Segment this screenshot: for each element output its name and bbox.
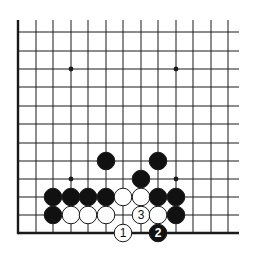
stone-disc xyxy=(79,188,97,206)
black-stone xyxy=(149,152,167,170)
white-stone xyxy=(132,188,150,206)
white-stone xyxy=(97,206,115,224)
go-board: 312 xyxy=(0,0,256,256)
stone-disc xyxy=(97,152,115,170)
black-stone xyxy=(97,152,115,170)
move-number: 2 xyxy=(155,226,162,240)
move-number: 1 xyxy=(120,226,127,240)
star-point xyxy=(174,67,179,72)
stone-disc xyxy=(44,188,62,206)
white-stone xyxy=(79,206,97,224)
stone-disc xyxy=(167,188,185,206)
black-stone xyxy=(97,188,115,206)
stone-disc xyxy=(167,206,185,224)
stones: 312 xyxy=(44,152,185,242)
stone-disc xyxy=(79,206,97,224)
white-stone xyxy=(114,188,132,206)
black-stone xyxy=(167,188,185,206)
stone-disc xyxy=(44,206,62,224)
white-stone xyxy=(62,206,80,224)
black-stone xyxy=(149,188,167,206)
white-stone: 3 xyxy=(132,206,150,224)
black-stone xyxy=(167,206,185,224)
stone-disc xyxy=(149,188,167,206)
white-stone xyxy=(149,206,167,224)
black-stone: 2 xyxy=(149,224,167,242)
stone-disc xyxy=(97,206,115,224)
white-stone: 1 xyxy=(114,224,132,242)
stone-disc xyxy=(62,188,80,206)
stone-disc xyxy=(149,152,167,170)
black-stone xyxy=(132,170,150,188)
stone-disc xyxy=(97,188,115,206)
stone-disc xyxy=(62,206,80,224)
stone-disc xyxy=(132,170,150,188)
star-point xyxy=(69,67,74,72)
black-stone xyxy=(79,188,97,206)
star-point xyxy=(69,177,74,182)
black-stone xyxy=(62,188,80,206)
star-point xyxy=(174,177,179,182)
stone-disc xyxy=(149,206,167,224)
stone-disc xyxy=(114,188,132,206)
move-number: 3 xyxy=(138,208,145,222)
black-stone xyxy=(44,206,62,224)
stone-disc xyxy=(132,188,150,206)
black-stone xyxy=(44,188,62,206)
